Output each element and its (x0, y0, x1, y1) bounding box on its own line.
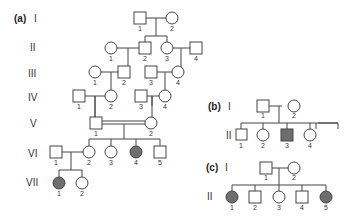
c-I-1-male (260, 162, 272, 174)
id-label: 4 (300, 204, 304, 211)
gen-label-I: I (225, 162, 228, 173)
a-IV-1-male (73, 90, 85, 102)
id-label: 3 (109, 159, 113, 166)
id-label: 1 (261, 112, 265, 119)
id-label: 2 (149, 130, 153, 137)
id-label: 4 (163, 103, 167, 110)
id-label: 2 (292, 174, 296, 181)
pedigree-figure: (a) I II III IV V VI VII 1 2 1 2 3 4 (0, 0, 355, 221)
a-III-3-male (145, 66, 157, 78)
a-II-1-female (105, 42, 117, 54)
a-IV-2-female (105, 90, 117, 102)
panel-b: (b) I II 1 2 1 2 3 4 (208, 100, 338, 149)
c-II-5-female-affected (320, 191, 332, 203)
a-VI-2-female (83, 146, 95, 158)
gen-label-IV: IV (28, 92, 38, 103)
id-label: 2 (109, 103, 113, 110)
a-IV-3-male (135, 90, 147, 102)
id-label: 3 (139, 103, 143, 110)
a-III-2-male (118, 66, 130, 78)
a-II-4-male (190, 42, 202, 54)
c-II-3-female (273, 191, 285, 203)
b-II-1-male (236, 129, 247, 140)
a-III-1-female (89, 66, 101, 78)
id-label: 2 (143, 55, 147, 62)
id-label: 1 (77, 103, 81, 110)
a-III-4-female (172, 66, 184, 78)
id-label: 1 (138, 25, 142, 32)
gen-label-VII: VII (26, 177, 38, 188)
id-label: 3 (149, 79, 153, 86)
id-label: 2 (80, 190, 84, 197)
id-label: 1 (230, 204, 234, 211)
id-label: 1 (239, 142, 243, 149)
id-label: 4 (308, 142, 312, 149)
gen-label-V: V (30, 118, 37, 129)
panel-c: (c) I II 1 2 1 2 3 4 5 (206, 162, 332, 211)
id-label: 5 (324, 204, 328, 211)
c-II-1-female-affected (226, 191, 238, 203)
a-VI-1-male (50, 146, 62, 158)
id-label: 1 (57, 190, 61, 197)
a-VI-3-female (105, 146, 117, 158)
id-label: 2 (292, 112, 296, 119)
id-label: 1 (93, 79, 97, 86)
id-label: 4 (176, 79, 180, 86)
b-I-1-male (257, 100, 269, 112)
a-I-2-female (166, 12, 178, 24)
gen-label-VI: VI (28, 148, 37, 159)
id-label: 2 (261, 142, 265, 149)
panel-c-label: (c) (206, 162, 218, 173)
id-label: 2 (253, 204, 257, 211)
id-label: 1 (94, 130, 98, 137)
gen-label-I: I (228, 101, 231, 112)
id-label: 2 (87, 159, 91, 166)
b-II-2-female (257, 129, 269, 141)
gen-label-I: I (34, 13, 37, 24)
a-V-1-male (90, 117, 102, 129)
id-label: 1 (54, 159, 58, 166)
a-V-2-female (145, 117, 157, 129)
id-label: 4 (194, 55, 198, 62)
a-VII-2-female (76, 177, 88, 189)
id-label: 1 (109, 55, 113, 62)
id-label: 5 (158, 159, 162, 166)
a-II-2-male (139, 42, 151, 54)
gen-label-II: II (226, 130, 232, 141)
gen-label-II: II (207, 191, 213, 202)
gen-label-II: II (30, 42, 36, 53)
id-label: 2 (170, 25, 174, 32)
c-II-2-male (249, 191, 261, 203)
a-IV-4-female (159, 90, 171, 102)
panel-b-label: (b) (208, 101, 221, 112)
b-II-4-female (304, 129, 316, 141)
a-I-1-male (134, 12, 146, 24)
panel-a: (a) I II III IV V VI VII 1 2 1 2 3 4 (14, 12, 202, 197)
c-I-2-female (288, 162, 300, 174)
a-II-3-female (161, 42, 173, 54)
panel-a-label: (a) (14, 13, 26, 24)
id-label: 3 (285, 142, 289, 149)
b-I-2-female (288, 100, 300, 112)
c-II-4-male (296, 191, 308, 203)
b-II-3-male-affected (281, 129, 293, 141)
id-label: 4 (134, 159, 138, 166)
gen-label-III: III (28, 68, 36, 79)
id-label: 3 (277, 204, 281, 211)
id-label: 2 (122, 79, 126, 86)
a-VI-5-male (154, 146, 166, 158)
id-label: 1 (264, 174, 268, 181)
a-VII-1-female-affected (53, 177, 65, 189)
id-label: 3 (165, 55, 169, 62)
a-VI-4-female-affected (130, 146, 142, 158)
